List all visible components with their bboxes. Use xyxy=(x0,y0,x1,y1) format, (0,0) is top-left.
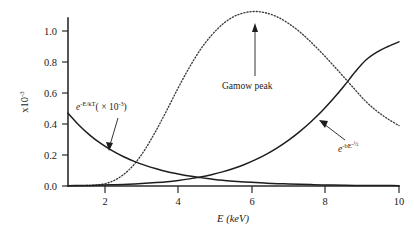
maxwell-boltzmann-arrowhead xyxy=(106,142,113,151)
mb-label-suffix-close: ) xyxy=(124,102,127,113)
curve-gamow-peak xyxy=(68,11,399,185)
curve-tunneling-probability xyxy=(68,42,399,186)
y-ticklabel-5: 1.0 xyxy=(44,26,57,37)
gamow-peak-annotation: Gamow peak xyxy=(222,23,273,91)
gamow-peak-label: Gamow peak xyxy=(222,81,273,91)
svg-text:E (keV): E (keV) xyxy=(216,213,249,225)
x-ticklabel-1: 4 xyxy=(175,196,181,207)
x-ticklabel-4: 10 xyxy=(394,196,405,207)
x-ticklabel-2: 6 xyxy=(249,196,254,207)
x-ticklabel-0: 2 xyxy=(102,196,107,207)
svg-text:x10-3: x10-3 xyxy=(18,91,30,113)
y-axis-title-exponent: -3 xyxy=(18,91,25,97)
curve-maxwell-boltzmann xyxy=(68,113,399,186)
y-ticklabel-1: 0.2 xyxy=(44,150,57,161)
mb-label-exponent: -E/kT xyxy=(80,100,95,107)
x-axis-title: E (keV) xyxy=(216,213,249,225)
tunneling-annotation: e-bE-½ xyxy=(319,120,359,154)
maxwell-boltzmann-leader-line xyxy=(110,118,118,145)
y-ticklabel-0: 0.0 xyxy=(44,181,57,192)
y-tick-group xyxy=(62,31,68,186)
x-ticklabel-3: 8 xyxy=(322,196,327,207)
curve-group xyxy=(68,11,399,185)
y-axis-title: x10-3 xyxy=(18,91,30,113)
plot-canvas: 0.0 0.2 0.4 0.6 0.8 1.0 2 4 6 8 10 E (ke… xyxy=(0,0,414,228)
gamow-peak-arrowhead xyxy=(252,23,258,32)
tunneling-leader-line xyxy=(324,124,345,140)
svg-text:e-bE-½: e-bE-½ xyxy=(338,140,359,154)
tunnel-label-exponent: -bE xyxy=(342,142,352,149)
y-ticklabel-2: 0.4 xyxy=(44,119,58,130)
x-axis-title-text: E (keV) xyxy=(216,213,249,225)
gamow-peak-figure: 0.0 0.2 0.4 0.6 0.8 1.0 2 4 6 8 10 E (ke… xyxy=(0,0,414,228)
tunnel-label-exponent2: -½ xyxy=(352,140,359,147)
y-ticklabel-group: 0.0 0.2 0.4 0.6 0.8 1.0 xyxy=(44,26,58,192)
svg-text:e-E/kT( × 10-3): e-E/kT( × 10-3) xyxy=(76,100,127,113)
y-ticklabel-3: 0.6 xyxy=(44,88,57,99)
mb-label-suffix: ( × 10 xyxy=(96,102,119,113)
y-axis-title-text: x10 xyxy=(19,97,30,113)
x-ticklabel-group: 2 4 6 8 10 xyxy=(102,196,404,207)
y-ticklabel-4: 0.8 xyxy=(44,57,57,68)
x-tick-group xyxy=(105,186,399,193)
tunneling-arrowhead xyxy=(319,120,328,128)
